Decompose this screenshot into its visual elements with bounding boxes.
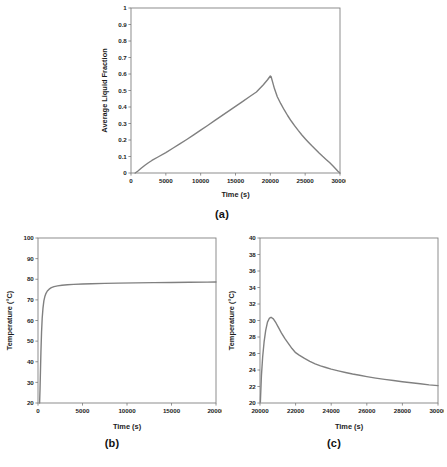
- x-tick-label: 30000: [331, 177, 346, 184]
- x-tick-label: 10000: [118, 407, 136, 414]
- y-tick-label: 0.4: [118, 103, 127, 110]
- y-tick-label: 0.2: [118, 136, 127, 143]
- x-tick-label: 26000: [358, 407, 376, 414]
- y-tick-label: 60: [27, 317, 34, 324]
- y-tick-label: 0.9: [118, 21, 127, 28]
- y-tick-label: 0.3: [118, 120, 127, 127]
- y-tick-label: 40: [249, 234, 256, 241]
- y-tick-label: 40: [27, 358, 34, 365]
- plot-area-b: 203040506070809010005000100001500020000T…: [2, 232, 222, 437]
- plot-frame: [131, 8, 340, 173]
- y-tick-label: 80: [27, 275, 34, 282]
- y-tick-label: 34: [249, 284, 256, 291]
- x-tick-label: 24000: [323, 407, 341, 414]
- y-axis-title: Average Liquid Fraction: [100, 48, 109, 133]
- y-tick-label: 38: [249, 251, 256, 258]
- y-tick-label: 24: [249, 366, 256, 373]
- y-tick-label: 28: [249, 333, 256, 340]
- y-tick-label: 0.7: [118, 54, 127, 61]
- y-tick-label: 70: [27, 296, 34, 303]
- x-tick-label: 0: [129, 177, 133, 184]
- x-tick-label: 25000: [297, 177, 315, 184]
- y-tick-label: 90: [27, 255, 34, 262]
- panel-caption-b: (b): [2, 437, 222, 449]
- x-tick-label: 20000: [251, 407, 269, 414]
- x-tick-label: 5000: [76, 407, 90, 414]
- series-line: [260, 317, 438, 402]
- y-tick-label: 32: [249, 300, 256, 307]
- y-tick-label: 36: [249, 267, 256, 274]
- chart-svg-b: 203040506070809010005000100001500020000T…: [2, 232, 222, 437]
- y-tick-label: 0.5: [118, 87, 127, 94]
- series-line: [40, 282, 216, 403]
- y-tick-label: 1: [123, 4, 127, 11]
- y-tick-label: 0.1: [118, 153, 127, 160]
- y-tick-label: 22: [249, 383, 256, 390]
- chart-svg-a: 00.10.20.30.40.50.60.70.80.9105000100001…: [98, 2, 346, 207]
- y-tick-label: 20: [249, 399, 256, 406]
- x-tick-label: 15000: [163, 407, 181, 414]
- y-tick-label: 30: [249, 317, 256, 324]
- x-tick-label: 22000: [287, 407, 305, 414]
- figure-three-panel-chart: 00.10.20.30.40.50.60.70.80.9105000100001…: [0, 0, 447, 467]
- y-tick-label: 0.6: [118, 70, 127, 77]
- y-tick-label: 26: [249, 350, 256, 357]
- plot-area-a: 00.10.20.30.40.50.60.70.80.9105000100001…: [98, 2, 346, 207]
- chart-panel-c: 2022242628303234363840200002200024000260…: [224, 232, 444, 465]
- y-tick-label: 0.8: [118, 37, 127, 44]
- panel-caption-a: (a): [98, 208, 346, 220]
- y-tick-label: 50: [27, 337, 34, 344]
- x-tick-label: 20000: [207, 407, 222, 414]
- plot-area-c: 2022242628303234363840200002200024000260…: [224, 232, 444, 437]
- plot-frame: [38, 238, 216, 403]
- x-tick-label: 20000: [262, 177, 280, 184]
- chart-svg-c: 2022242628303234363840200002200024000260…: [224, 232, 444, 437]
- plot-frame: [260, 238, 438, 403]
- y-tick-label: 30: [27, 379, 34, 386]
- panel-caption-c: (c): [224, 437, 444, 449]
- y-axis-title: Temperature (°C): [5, 290, 14, 350]
- x-axis-title: Time (s): [221, 190, 250, 199]
- y-tick-label: 0: [123, 169, 127, 176]
- chart-panel-a: 00.10.20.30.40.50.60.70.80.9105000100001…: [98, 2, 346, 224]
- x-tick-label: 5000: [159, 177, 173, 184]
- series-line: [135, 76, 340, 173]
- x-tick-label: 28000: [394, 407, 412, 414]
- chart-panel-b: 203040506070809010005000100001500020000T…: [2, 232, 222, 465]
- x-tick-label: 30000: [429, 407, 444, 414]
- y-tick-label: 100: [23, 234, 34, 241]
- x-tick-label: 0: [36, 407, 40, 414]
- x-tick-label: 15000: [227, 177, 245, 184]
- x-axis-title: Time (s): [335, 422, 364, 431]
- y-axis-title: Temperature (°C): [227, 290, 236, 350]
- x-tick-label: 10000: [192, 177, 210, 184]
- y-tick-label: 20: [27, 399, 34, 406]
- x-axis-title: Time (s): [113, 422, 142, 431]
